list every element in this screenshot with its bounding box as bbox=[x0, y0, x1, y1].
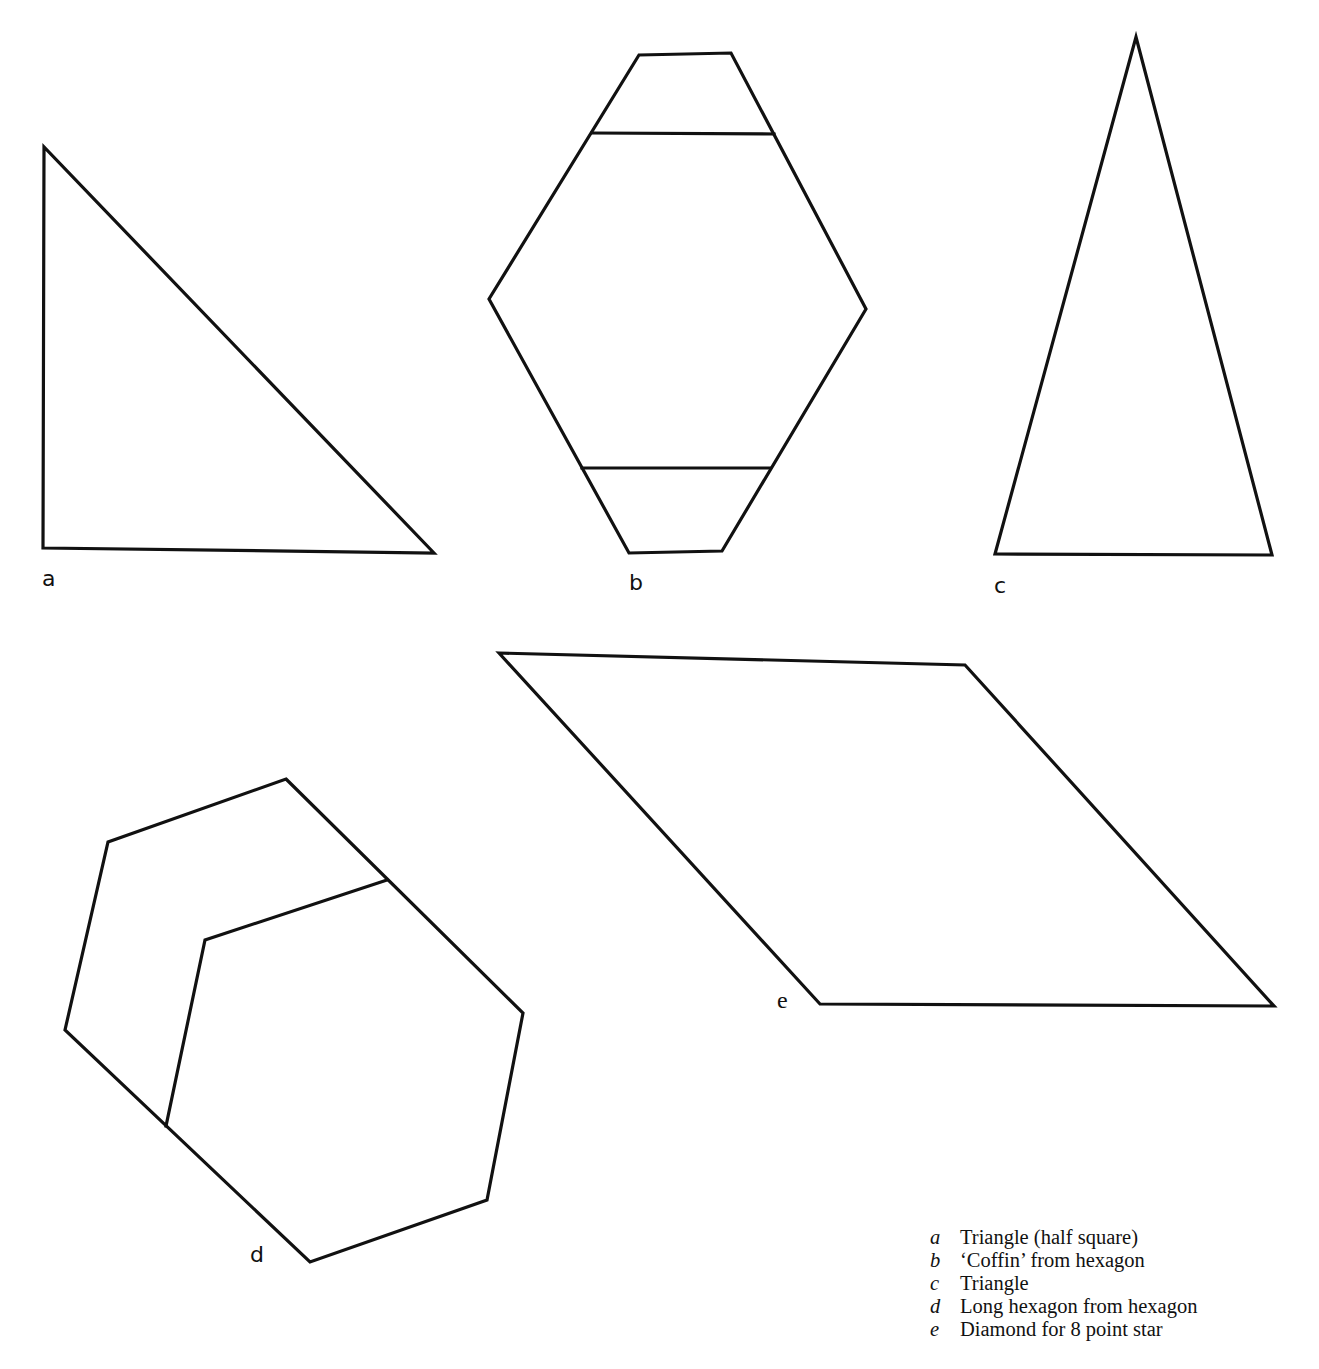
legend-key: b bbox=[930, 1249, 960, 1272]
legend-key: e bbox=[930, 1318, 960, 1341]
legend-key: a bbox=[930, 1226, 960, 1249]
shape-d-inner-hexagon-line bbox=[166, 880, 387, 1126]
legend-item-e: e Diamond for 8 point star bbox=[930, 1318, 1197, 1341]
legend-text: Triangle (half square) bbox=[960, 1226, 1138, 1249]
diagram-canvas: a b c d e a Triangle (half square) b ‘Co… bbox=[0, 0, 1319, 1369]
legend-text: ‘Coffin’ from hexagon bbox=[960, 1249, 1145, 1272]
shape-b-coffin bbox=[489, 53, 866, 553]
legend-text: Long hexagon from hexagon bbox=[960, 1295, 1197, 1318]
legend-text: Triangle bbox=[960, 1272, 1029, 1295]
legend-text: Diamond for 8 point star bbox=[960, 1318, 1163, 1341]
label-a: a bbox=[42, 568, 55, 590]
legend: a Triangle (half square) b ‘Coffin’ from… bbox=[930, 1226, 1197, 1341]
shape-e-diamond bbox=[499, 653, 1274, 1006]
legend-item-a: a Triangle (half square) bbox=[930, 1226, 1197, 1249]
label-e: e bbox=[777, 988, 788, 1012]
legend-item-c: c Triangle bbox=[930, 1272, 1197, 1295]
shape-a-triangle-half-square bbox=[43, 147, 434, 553]
shape-b-outline bbox=[489, 53, 866, 553]
legend-item-d: d Long hexagon from hexagon bbox=[930, 1295, 1197, 1318]
shape-b-top-cut-line bbox=[592, 133, 774, 134]
label-b: b bbox=[629, 572, 643, 594]
legend-key: c bbox=[930, 1272, 960, 1295]
legend-key: d bbox=[930, 1295, 960, 1318]
shape-c-triangle bbox=[995, 37, 1272, 555]
shape-d-long-hexagon bbox=[65, 779, 523, 1262]
legend-item-b: b ‘Coffin’ from hexagon bbox=[930, 1249, 1197, 1272]
label-c: c bbox=[994, 575, 1006, 597]
shape-d-outline bbox=[65, 779, 523, 1262]
label-d: d bbox=[250, 1244, 264, 1266]
shapes-layer bbox=[0, 0, 1319, 1369]
